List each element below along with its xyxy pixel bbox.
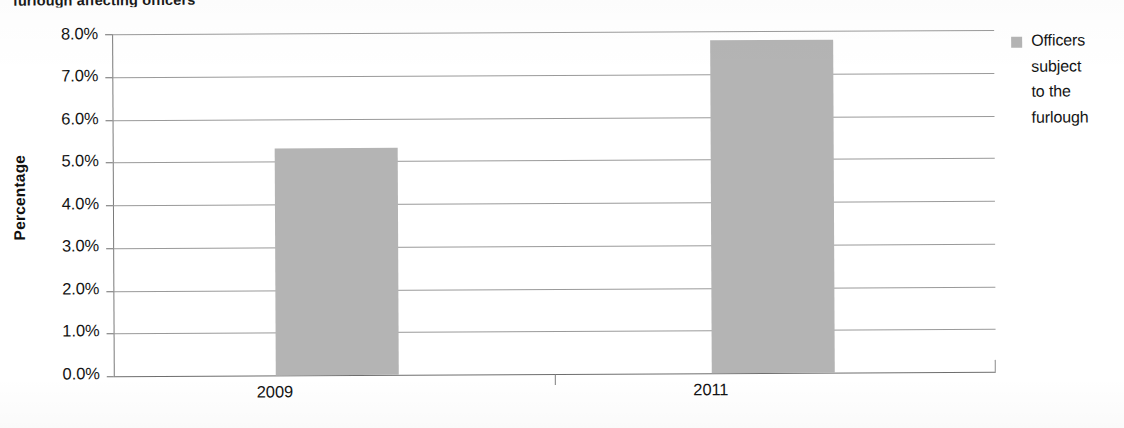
plot-area [112,30,996,376]
y-tick-0 [107,376,114,377]
legend-label-line-4: furlough [1031,104,1123,130]
y-tick-label-7: 7.0% [36,66,98,85]
bar-2009 [275,148,399,375]
chart-title-clipped: furlough affecting officers [13,0,443,8]
gridline-1 [114,329,996,334]
y-axis-title: Percentage [11,143,30,253]
y-tick-2 [106,291,113,292]
y-tick-1 [107,333,114,334]
y-tick-7 [105,77,112,78]
y-tick-label-4: 4.0% [37,194,99,213]
y-tick-label-6: 6.0% [36,109,98,128]
y-tick-label-2: 2.0% [37,279,99,298]
bar-2011 [710,39,835,373]
y-tick-3 [106,248,113,249]
gridline-7 [112,73,994,78]
gridline-5 [113,158,995,163]
y-tick-label-8: 8.0% [36,24,98,43]
legend-color-swatch-icon [1011,37,1022,48]
gridline-4 [113,201,995,206]
legend-label-line-3: to the [1031,78,1123,104]
gridline-8 [112,30,994,35]
y-tick-4 [106,205,113,206]
y-tick-label-1: 1.0% [38,321,100,340]
x-tick-label-2009: 2009 [215,382,335,402]
y-tick-label-0: 0.0% [38,364,100,383]
y-tick-label-5: 5.0% [37,151,99,170]
y-tick-8 [105,34,112,35]
plot-right-edge-cap [995,360,996,372]
y-tick-6 [106,120,113,121]
gridline-3 [113,244,995,249]
chart-title-text: furlough affecting officers [13,0,443,8]
legend-label-line-1: Officers [1031,27,1123,53]
chart-legend: Officers subject to the furlough [1005,27,1123,28]
y-tick-label-3: 3.0% [37,236,99,255]
x-tick-label-2011: 2011 [651,380,771,400]
gridline-2 [113,286,995,291]
chart-figure: furlough affecting officers Percentage 8… [0,0,1124,428]
legend-label-line-2: subject [1031,53,1123,79]
x-axis-category-divider-tick [555,374,556,385]
y-tick-5 [106,162,113,163]
gridline-6 [113,115,995,120]
legend-entry-label: Officers subject to the furlough [1031,27,1123,129]
